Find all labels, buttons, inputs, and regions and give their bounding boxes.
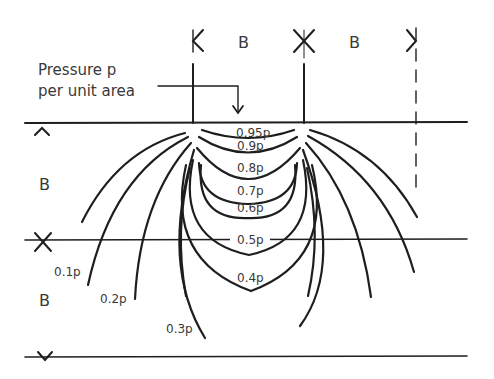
label-0.4p: 0.4p [237,271,264,285]
label-0.8p: 0.8p [237,161,264,175]
pressure-title-line2: per unit area [38,82,135,100]
depth-tick-top-icon [35,128,49,135]
left-fan-curves [82,133,205,338]
isobar-labels: 0.95p 0.9p 0.8p 0.7p 0.6p 0.5p 0.4p 0.3p… [54,126,270,336]
leader-line [158,86,238,112]
diagram-canvas: B B B B Pressure p per unit area [0,0,494,379]
label-0.1p: 0.1p [54,265,81,279]
label-0.95p: 0.95p [236,126,270,140]
label-0.5p: 0.5p [237,233,264,247]
label-0.7p: 0.7p [237,184,264,198]
dimension-tick-right-icon [407,30,416,51]
label-0.3p: 0.3p [166,322,193,336]
depth-tick-middle-icon [35,233,51,251]
label-0.2p: 0.2p [100,292,127,306]
dimension-tick-middle-icon [294,30,314,58]
depth-2B-line [25,356,467,357]
left-lower-depth-label: B [39,291,50,310]
top-right-width-label: B [349,33,360,52]
pressure-bulb-diagram: B B B B Pressure p per unit area [0,0,494,379]
depth-tick-bottom-icon [38,352,52,360]
label-0.9p: 0.9p [237,139,264,153]
pressure-title-line1: Pressure p [38,61,116,79]
left-upper-depth-label: B [39,175,50,194]
top-left-width-label: B [238,33,249,52]
label-0.6p: 0.6p [237,201,264,215]
dimension-tick-left-icon [193,30,203,52]
ground-surface-line [25,122,467,123]
right-fan-curves [300,130,417,326]
